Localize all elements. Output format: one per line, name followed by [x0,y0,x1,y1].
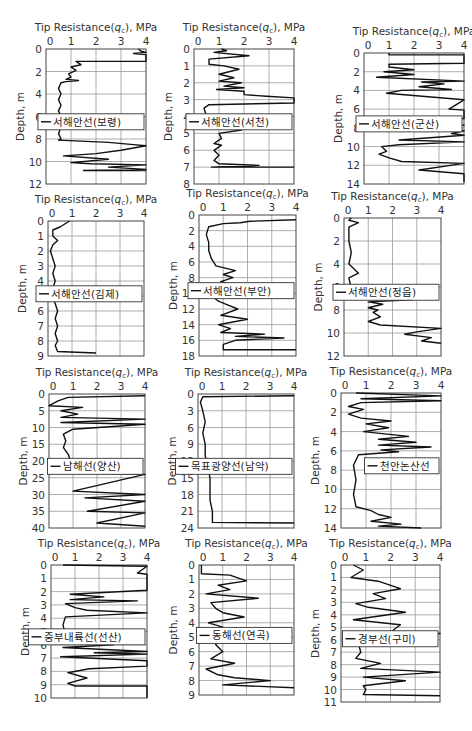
legend-label: 천안논산선 [380,460,430,472]
x-tick-label: 4 [142,380,149,392]
y-tick-label: 1 [37,230,44,242]
y-tick-label: 30 [32,489,45,501]
legend-label: 서해안선(군산) [371,118,439,130]
y-tick-label: 2 [330,584,337,596]
legend-label: 경부선(구미) [358,633,416,645]
x-tick-label: 4 [461,39,468,51]
x-tick-label: 1 [220,201,227,213]
y-tick-label: 0 [330,559,337,571]
y-tick-label: 4 [40,612,47,624]
legend-label: 서해안선(보령) [53,116,121,128]
y-tick-label: 8 [330,464,337,476]
x-tick-label: 2 [387,551,394,563]
x-axis-title: Tip Resistance(qc), MPa [184,537,307,551]
y-tick-label: 6 [37,305,44,317]
y-tick-label: 18 [181,489,194,501]
x-axis-title: Tip Resistance(qc), MPa [329,365,452,379]
y-tick-label: 10 [324,684,337,696]
x-tick-label: 1 [69,207,76,219]
y-tick-label: 6 [188,256,195,268]
y-tick-label: 0 [37,215,44,227]
x-tick-label: 4 [438,379,445,391]
legend-label: 서해안선(부안) [203,285,271,297]
y-axis-title: Depth, m [332,94,344,143]
x-axis-title: Tip Resistance(qc), MPa [328,537,451,551]
x-axis-title: Tip Resistance(qc), MPa [352,25,472,39]
x-tick-label: 0 [52,551,59,563]
y-tick-label: 2 [333,235,340,247]
x-axis-title: Tip Resistance(qc), MPa [330,190,453,204]
cpt-panel-3: Tip Resistance(qc), MPa0123402468101214D… [334,21,472,194]
x-tick-label: 3 [268,201,275,213]
y-tick-label: 7 [188,660,195,672]
y-tick-label: 10 [29,156,42,168]
y-axis-title: Depth, m [312,263,324,312]
y-tick-label: 15 [32,438,45,450]
y-tick-label: 21 [181,505,194,517]
x-tick-label: 0 [200,551,207,563]
x-tick-label: 4 [291,35,298,47]
y-tick-label: 1 [183,60,190,72]
y-axis-title: Depth, m [17,437,29,486]
y-axis-title: Depth, m [16,264,28,313]
x-tick-label: 1 [68,35,75,47]
cpt-panel-9: Tip Resistance(qc), MPa0123402468101214D… [311,361,449,538]
x-tick-label: 1 [70,380,77,392]
y-axis-title: Depth, m [162,92,174,141]
y-tick-label: 5 [330,621,337,633]
x-tick-label: 2 [94,380,101,392]
y-tick-label: 11 [324,696,337,708]
y-tick-label: 3 [37,260,44,272]
y-tick-label: 8 [35,133,42,145]
y-axis-title: Depth, m [167,606,179,655]
legend-label: 동해선(연곡) [212,629,270,641]
y-tick-label: 18 [182,350,195,362]
y-tick-label: 8 [188,675,195,687]
x-tick-label: 3 [266,35,273,47]
y-tick-label: 0 [38,388,45,400]
qc-profile-line [201,565,294,688]
legend-label: 남해선(양산) [63,460,121,472]
x-tick-label: 0 [49,207,56,219]
x-tick-label: 3 [118,35,125,47]
x-tick-label: 2 [388,379,395,391]
y-tick-label: 0 [183,43,190,55]
y-tick-label: 7 [330,646,337,658]
y-tick-label: 7 [183,161,190,173]
y-tick-label: 4 [333,258,340,270]
cpt-panel-7: Tip Resistance(qc), MPa01234051015202530… [19,362,153,538]
cpt-panel-12: Tip Resistance(qc), MPa01234012345678910… [311,533,448,712]
y-tick-label: 4 [188,617,195,629]
x-tick-label: 2 [93,207,100,219]
y-tick-label: 2 [353,66,360,78]
y-tick-label: 2 [35,66,42,78]
y-tick-label: 2 [37,245,44,257]
x-axis-title: Tip Resistance(qc), MPa [182,21,305,35]
x-tick-label: 0 [345,204,352,216]
y-tick-label: 8 [188,272,195,284]
x-tick-label: 0 [47,35,54,47]
x-tick-label: 3 [117,207,124,219]
y-tick-label: 20 [32,455,45,467]
legend-label: 서해안선(정읍) [348,286,416,298]
y-tick-label: 8 [333,304,340,316]
y-tick-label: 10 [34,692,47,704]
legend-label: 중부내륙선(선산) [44,631,122,643]
y-tick-label: 9 [330,671,337,683]
y-tick-label: 4 [188,240,195,252]
y-tick-label: 25 [32,472,45,484]
y-tick-label: 0 [188,209,195,221]
x-tick-label: 1 [363,379,370,391]
y-tick-label: 7 [40,652,47,664]
x-tick-label: 4 [291,551,298,563]
x-tick-label: 1 [216,35,223,47]
y-tick-label: 2 [188,588,195,600]
y-tick-label: 9 [37,350,44,362]
y-tick-label: 4 [330,426,337,438]
y-tick-label: 16 [182,334,196,346]
cpt-panel-1: Tip Resistance(qc), MPa01234024681012Dep… [16,17,154,194]
x-tick-label: 0 [342,551,349,563]
x-tick-label: 3 [267,380,274,392]
y-tick-label: 35 [32,505,45,517]
cpt-panel-11: Tip Resistance(qc), MPa012340123456789De… [169,533,302,705]
